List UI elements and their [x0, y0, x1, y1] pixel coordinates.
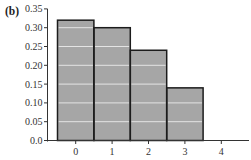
x-axis: 01234 — [44, 141, 249, 158]
bar-chart: (b) 0.00.050.100.150.200.250.300.35 0123… — [0, 0, 251, 160]
y-tick-label: 0.30 — [25, 22, 43, 33]
x-tick-label: 0 — [73, 146, 78, 157]
histogram-figure: (b) 0.00.050.100.150.200.250.300.35 0123… — [0, 0, 251, 160]
bar-2 — [130, 50, 166, 140]
y-tick-label: 0.20 — [25, 60, 43, 71]
bar-3 — [167, 88, 203, 141]
y-tick-label: 0.0 — [30, 135, 43, 146]
x-tick-label: 4 — [219, 146, 224, 157]
x-tick-label: 2 — [146, 146, 151, 157]
y-axis: 0.00.050.100.150.200.250.300.35 — [25, 3, 48, 146]
x-tick-label: 1 — [110, 146, 115, 157]
bar-0 — [58, 20, 94, 140]
x-tick-label: 3 — [182, 146, 187, 157]
y-tick-label: 0.10 — [25, 97, 43, 108]
y-tick-label: 0.15 — [25, 79, 43, 90]
panel-label: (b) — [5, 5, 19, 18]
y-tick-label: 0.05 — [25, 116, 43, 127]
y-tick-label: 0.25 — [25, 41, 43, 52]
y-tick-label: 0.35 — [25, 3, 43, 14]
